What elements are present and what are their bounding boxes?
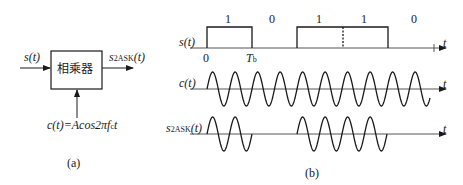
output-label-tail: (t)	[134, 50, 145, 64]
output-label-sub: 2ASK	[114, 54, 134, 63]
st-axis-label: t	[443, 37, 446, 49]
st-label: s(t)	[179, 36, 195, 48]
carrier-equation-tail: t	[114, 118, 117, 132]
ct-label: c(t)	[179, 77, 196, 89]
bit-label-2: 0	[269, 13, 275, 25]
st-pulse-1	[207, 27, 252, 48]
period-label: Tb	[246, 52, 257, 64]
ask-label-sub: 2ASK	[171, 125, 191, 134]
period-label-main: T	[246, 51, 253, 65]
carrier-waveform	[190, 72, 446, 106]
bit-label-1: 1	[225, 13, 231, 25]
ask-label-tail: (t)	[191, 121, 202, 135]
input-label: s(t)	[24, 51, 40, 63]
output-label: s2ASK(t)	[109, 51, 145, 63]
ask-waveform	[190, 117, 446, 151]
carrier-equation-main: c(t)=Acos2πf	[47, 118, 110, 132]
ct-axis-label: t	[443, 78, 446, 90]
multiplier-label: 相乘器	[57, 63, 93, 75]
period-label-sub: b	[253, 55, 257, 64]
baseband-waveform	[190, 27, 446, 52]
bit-label-5: 0	[411, 13, 417, 25]
ask-label: s2ASK(t)	[166, 122, 202, 134]
caption-a: (a)	[67, 157, 80, 169]
bit-label-4: 1	[361, 13, 367, 25]
bit-label-3: 1	[316, 13, 322, 25]
carrier-equation: c(t)=Acos2πfct	[47, 119, 117, 131]
origin-label: 0	[203, 52, 209, 64]
ask-axis-label: t	[443, 123, 446, 135]
caption-b: (b)	[305, 167, 319, 179]
